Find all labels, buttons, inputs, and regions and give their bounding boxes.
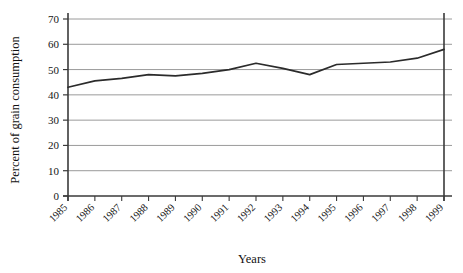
y-tick-label: 0 [54, 190, 60, 202]
y-tick-label: 30 [48, 114, 60, 126]
chart-canvas: 010203040506070 198519861987198819891990… [0, 0, 463, 273]
chart-background [0, 0, 463, 273]
y-tick-label: 50 [48, 64, 60, 76]
y-tick-label: 20 [48, 139, 60, 151]
y-axis-title: Percent of grain consumption [8, 35, 22, 183]
x-axis-title: Years [238, 252, 266, 266]
y-tick-label: 60 [48, 38, 60, 50]
line-chart: 010203040506070 198519861987198819891990… [0, 0, 463, 273]
y-tick-label: 40 [48, 89, 60, 101]
y-tick-label: 10 [48, 165, 60, 177]
y-tick-label: 70 [48, 13, 60, 25]
